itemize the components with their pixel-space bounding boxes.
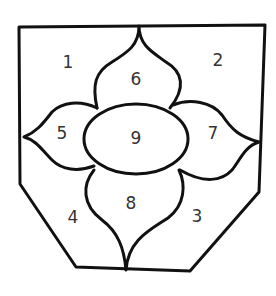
region-label-9: 9 bbox=[131, 128, 142, 148]
region-label-1: 1 bbox=[63, 52, 74, 72]
region-label-8: 8 bbox=[126, 193, 137, 213]
outer-frame bbox=[19, 25, 265, 271]
flower-diagram: 1 2 3 4 5 6 7 8 9 bbox=[0, 0, 276, 296]
region-label-5: 5 bbox=[57, 123, 68, 143]
region-label-4: 4 bbox=[68, 207, 79, 227]
region-label-3: 3 bbox=[192, 206, 203, 226]
region-label-7: 7 bbox=[208, 123, 219, 143]
region-label-2: 2 bbox=[213, 50, 224, 70]
region-label-6: 6 bbox=[131, 69, 142, 89]
petal-top-outline bbox=[95, 26, 181, 108]
petal-bottom-outline bbox=[86, 170, 183, 270]
